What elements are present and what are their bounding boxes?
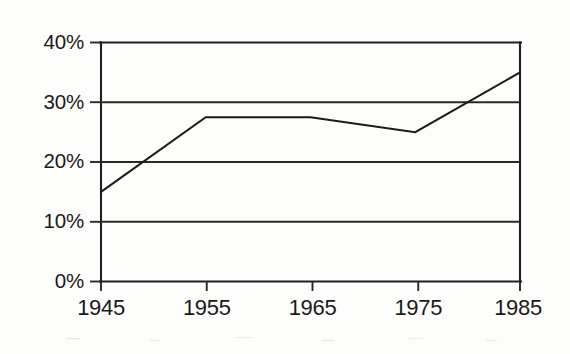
y-label-20: 20% (44, 149, 84, 172)
y-label-40: 40% (44, 30, 84, 53)
line-chart: 40% 30% 20% 10% 0% 1945 1955 1965 1975 1… (0, 0, 570, 354)
y-label-0: 0% (55, 269, 84, 292)
x-label-1985: 1985 (494, 295, 542, 320)
x-label-1965: 1965 (289, 295, 337, 320)
x-label-1975: 1975 (394, 295, 442, 320)
x-label-1945: 1945 (77, 295, 125, 320)
y-label-10: 10% (44, 209, 84, 232)
x-label-1955: 1955 (183, 295, 231, 320)
y-label-30: 30% (44, 90, 84, 113)
chart-container: 40% 30% 20% 10% 0% 1945 1955 1965 1975 1… (0, 0, 570, 354)
